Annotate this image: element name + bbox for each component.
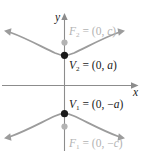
vertex-lower-point [61, 110, 68, 117]
focus-lower-point [61, 123, 67, 129]
focus-upper-name: F [69, 25, 76, 37]
vertex-lower-name: V [69, 98, 76, 110]
focus-upper-close: ) [112, 25, 116, 37]
x-axis-label: x [133, 87, 138, 99]
focus-lower-label: F1 = (0, −c) [69, 138, 123, 150]
hyperbola-plot-svg [0, 0, 141, 151]
x-axis [2, 82, 139, 89]
focus-upper-label: F2 = (0, c) [69, 26, 116, 38]
y-axis-label: y [55, 12, 60, 24]
vertex-upper-point [61, 52, 68, 59]
focus-upper-point [61, 39, 67, 45]
vertex-lower-close: ) [119, 98, 123, 110]
vertex-upper-close: ) [113, 59, 117, 71]
vertex-upper-label: V2 = (0, a) [69, 60, 117, 72]
y-axis [61, 13, 67, 151]
focus-lower-close: ) [119, 137, 123, 149]
focus-lower-eq: = (0, − [80, 137, 114, 149]
hyperbola-figure: y x F2 = (0, c) V2 = (0, a) V1 = (0, −a)… [0, 0, 141, 151]
vertex-upper-name: V [69, 59, 76, 71]
vertex-lower-eq: = (0, − [80, 98, 114, 110]
vertex-lower-label: V1 = (0, −a) [69, 99, 123, 111]
vertex-upper-eq: = (0, [80, 59, 108, 71]
focus-upper-eq: = (0, [80, 25, 108, 37]
focus-lower-name: F [69, 137, 76, 149]
